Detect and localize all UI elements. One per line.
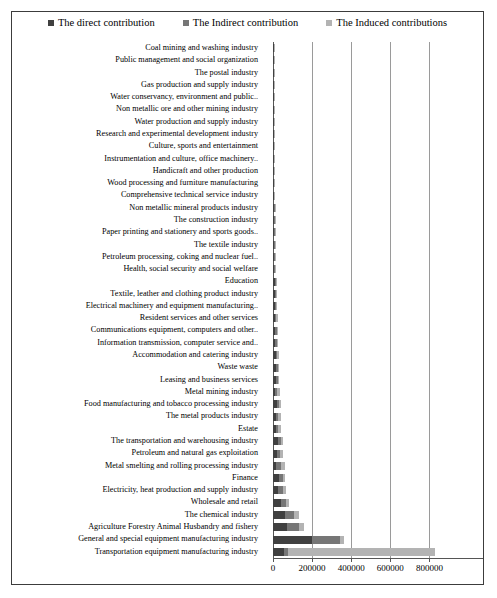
category-label: Comprehensive technical service industry xyxy=(12,189,262,201)
legend-swatch-induced xyxy=(326,20,332,26)
bar-row[interactable] xyxy=(273,91,275,103)
bar-row[interactable] xyxy=(273,349,279,361)
bar-row[interactable] xyxy=(273,484,286,496)
bar-row[interactable] xyxy=(273,337,278,349)
category-label: Petroleum processing, coking and nuclear… xyxy=(12,251,262,263)
bar-segment-induced xyxy=(277,351,279,359)
category-label: Finance xyxy=(12,472,262,484)
category-label-row: Water production and supply industry xyxy=(12,116,262,128)
bar-segment-direct xyxy=(273,523,287,531)
category-label: Paper printing and stationery and sports… xyxy=(12,226,262,238)
category-label-row: The metal products industry xyxy=(12,410,262,422)
bar-row[interactable] xyxy=(273,153,275,165)
category-label-row: Estate xyxy=(12,423,262,435)
category-label-row: The construction industry xyxy=(12,214,262,226)
bar-segment-direct xyxy=(273,536,312,544)
legend-label-indirect: The Indirect contribution xyxy=(193,18,299,29)
bar-row[interactable] xyxy=(273,177,275,189)
bar-row[interactable] xyxy=(273,447,283,459)
category-label: Waste waste xyxy=(12,361,262,373)
category-label-row: Handicraft and other production xyxy=(12,165,262,177)
bar-row[interactable] xyxy=(273,128,275,140)
x-axis-tick xyxy=(273,558,274,562)
bar-row[interactable] xyxy=(273,288,277,300)
x-axis-tick xyxy=(312,558,313,562)
bar-row[interactable] xyxy=(273,226,275,238)
bar-row[interactable] xyxy=(273,67,275,79)
category-label: Wood processing and furniture manufactur… xyxy=(12,177,262,189)
bar-row[interactable] xyxy=(273,435,283,447)
bar-row[interactable] xyxy=(273,79,275,91)
category-label: Leasing and business services xyxy=(12,374,262,386)
bar-row[interactable] xyxy=(273,411,281,423)
category-label-row: Education xyxy=(12,275,262,287)
bar-row[interactable] xyxy=(273,165,275,177)
bar-segment-induced xyxy=(274,93,275,101)
category-label: Accommodation and catering industry xyxy=(12,349,262,361)
bar-segment-induced xyxy=(340,536,344,544)
bar-row[interactable] xyxy=(273,300,277,312)
bar-row[interactable] xyxy=(273,509,299,521)
bar-row[interactable] xyxy=(273,189,275,201)
bar-row[interactable] xyxy=(273,140,275,152)
bar-row[interactable] xyxy=(273,521,304,533)
legend-label-induced: The Induced contributions xyxy=(336,18,447,29)
bar-row[interactable] xyxy=(273,460,285,472)
bar-row[interactable] xyxy=(273,472,285,484)
bar-row[interactable] xyxy=(273,423,281,435)
bar-segment-induced xyxy=(288,548,436,556)
bar-row[interactable] xyxy=(273,239,276,251)
category-label: Research and experimental development in… xyxy=(12,128,262,140)
legend-item-indirect[interactable]: The Indirect contribution xyxy=(183,18,299,29)
bar-row[interactable] xyxy=(273,42,275,54)
bar-row[interactable] xyxy=(273,312,278,324)
bar-row[interactable] xyxy=(273,214,275,226)
bar-segment-direct xyxy=(273,548,284,556)
bar-row[interactable] xyxy=(273,275,277,287)
bar-segment-induced xyxy=(278,364,280,372)
bar-row[interactable] xyxy=(273,546,435,558)
category-label: Transportation equipment manufacturing i… xyxy=(12,546,262,558)
bar-row[interactable] xyxy=(273,103,275,115)
bar-segment-induced xyxy=(275,265,276,273)
bar-row[interactable] xyxy=(273,361,279,373)
bar-segment-induced xyxy=(276,290,277,298)
category-label-row: Health, social security and social welfa… xyxy=(12,263,262,275)
bar-row[interactable] xyxy=(273,398,281,410)
category-label: Estate xyxy=(12,423,262,435)
bar-row[interactable] xyxy=(273,374,279,386)
category-label-row: Metal mining industry xyxy=(12,386,262,398)
chart-legend: The direct contribution The Indirect con… xyxy=(12,18,483,29)
bar-row[interactable] xyxy=(273,54,275,66)
category-label: The postal industry xyxy=(12,67,262,79)
category-label: Wholesale and retail xyxy=(12,496,262,508)
bar-row[interactable] xyxy=(273,263,276,275)
category-label: Resident services and other services xyxy=(12,312,262,324)
bar-row[interactable] xyxy=(273,497,289,509)
category-label-row: Petroleum processing, coking and nuclear… xyxy=(12,251,262,263)
bar-segment-induced xyxy=(274,69,275,77)
x-axis-tick-label: 200000 xyxy=(299,563,326,573)
bar-row[interactable] xyxy=(273,251,276,263)
legend-item-direct[interactable]: The direct contribution xyxy=(48,18,155,29)
bar-segment-induced xyxy=(294,511,299,519)
legend-item-induced[interactable]: The Induced contributions xyxy=(326,18,447,29)
bar-row[interactable] xyxy=(273,533,344,545)
category-label: Education xyxy=(12,275,262,287)
bar-segment-induced xyxy=(274,56,275,64)
bar-row[interactable] xyxy=(273,116,275,128)
category-label-row: Resident services and other services xyxy=(12,312,262,324)
bar-segment-induced xyxy=(276,278,277,286)
x-axis-tick-label: 0 xyxy=(271,563,276,573)
category-axis-labels: Coal mining and washing industryPublic m… xyxy=(12,42,262,558)
category-label-row: Research and experimental development in… xyxy=(12,128,262,140)
plot-area: Coal mining and washing industryPublic m… xyxy=(12,42,483,584)
bar-row[interactable] xyxy=(273,386,280,398)
bar-row[interactable] xyxy=(273,325,278,337)
category-label-row: Food manufacturing and tobacco processin… xyxy=(12,398,262,410)
bar-segment-induced xyxy=(283,474,285,482)
bar-row[interactable] xyxy=(273,202,275,214)
category-label-row: Non metallic ore and other mining indust… xyxy=(12,103,262,115)
bar-segment-direct xyxy=(273,499,281,507)
bar-segment-indirect xyxy=(285,511,294,519)
